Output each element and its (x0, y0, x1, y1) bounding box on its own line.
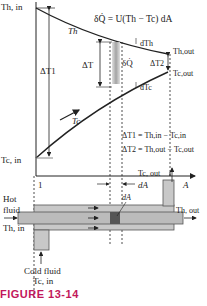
svg-text:Th, out: Th, out (176, 206, 200, 215)
svg-text:Tc, out: Tc, out (138, 169, 161, 178)
svg-text:ΔT1: ΔT1 (40, 66, 56, 76)
svg-text:dA: dA (138, 180, 149, 190)
svg-text:Tc: Tc (72, 116, 80, 126)
svg-text:Th, in: Th, in (1, 2, 23, 12)
svg-text:fluid: fluid (3, 205, 20, 215)
svg-text:A: A (182, 180, 189, 190)
svg-text:Cold fluid: Cold fluid (24, 266, 61, 276)
svg-text:δQ̇ = U(Th − Tc) dA: δQ̇ = U(Th − Tc) dA (94, 13, 173, 25)
svg-text:Tc,out: Tc,out (173, 69, 194, 78)
svg-text:dA: dA (122, 193, 131, 202)
svg-text:1: 1 (38, 180, 43, 190)
svg-text:Hot: Hot (3, 194, 17, 204)
svg-text:δQ̇: δQ̇ (122, 58, 133, 68)
svg-text:Tc, in: Tc, in (33, 276, 54, 286)
svg-text:ΔT2 = Th,out − Tc,out: ΔT2 = Th,out − Tc,out (122, 145, 195, 154)
svg-text:Th: Th (68, 26, 78, 36)
svg-text:Th, in: Th, in (3, 223, 25, 233)
svg-text:Tc, in: Tc, in (1, 155, 22, 165)
svg-text:dTh: dTh (140, 39, 153, 48)
svg-text:ΔT1 = Th,in − Tc,in: ΔT1 = Th,in − Tc,in (122, 131, 186, 140)
svg-text:ΔT2: ΔT2 (150, 59, 164, 68)
svg-text:dTc: dTc (140, 83, 152, 92)
svg-text:ΔT: ΔT (82, 60, 94, 70)
figure-caption: FIGURE 13-14 (0, 288, 79, 300)
exchanger (4, 168, 196, 264)
heat-exchanger-diagram: Th, in Tc, in Th Tc δQ̇ = U(Th − Tc) dA … (0, 0, 207, 306)
svg-text:Th,out: Th,out (173, 47, 195, 56)
